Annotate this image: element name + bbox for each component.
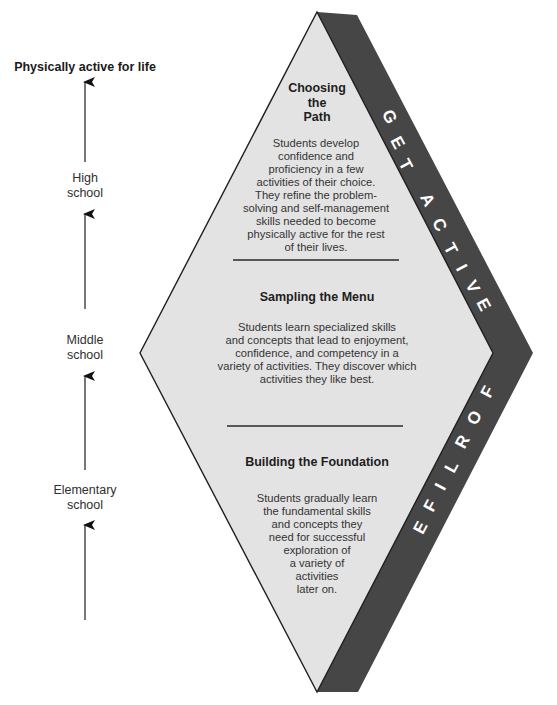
section-body-building-the-foundation: Students gradually learn the fundamental…: [217, 492, 417, 596]
diagram-canvas: Physically active for life High school M…: [0, 0, 557, 705]
section-title-sampling-the-menu: Sampling the Menu: [217, 290, 417, 305]
stage-label-middle-school: Middle school: [0, 333, 170, 363]
section-title-choosing-the-path: Choosing the Path: [237, 81, 397, 125]
stage-label-elementary-school: Elementary school: [0, 483, 170, 513]
section-body-sampling-the-menu: Students learn specialized skills and co…: [187, 321, 447, 386]
goal-label: Physically active for life: [0, 60, 170, 74]
section-title-building-the-foundation: Building the Foundation: [207, 455, 427, 470]
stage-label-high-school: High school: [0, 171, 170, 201]
